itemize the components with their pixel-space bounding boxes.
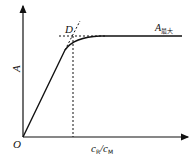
origin-label: O [13,138,21,150]
point-d-label: D [64,23,73,35]
y-axis-label: A [10,65,22,73]
x-axis-label: cR/cM [91,142,113,155]
diagram-canvas: D A最大 A O cR/cM [0,0,193,164]
saturation-curve [23,36,182,137]
max-label: A最大 [154,22,173,35]
